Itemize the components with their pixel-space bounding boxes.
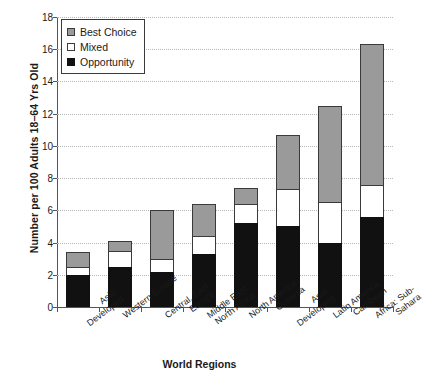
bar-segment-mixed xyxy=(318,202,342,242)
bar-slot xyxy=(351,17,393,307)
legend-label-mixed: Mixed xyxy=(80,41,108,53)
bar-slot xyxy=(141,17,183,307)
y-axis-tick-label: 8 xyxy=(27,173,53,184)
bar-segment-best-choice xyxy=(318,106,342,203)
bar-segment-mixed xyxy=(108,251,132,267)
bar-segment-best-choice xyxy=(360,44,384,184)
y-axis-tick-label: 14 xyxy=(27,76,53,87)
y-axis-tick-label: 6 xyxy=(27,205,53,216)
legend-label-opportunity: Opportunity xyxy=(80,56,134,68)
legend-swatch-icon-best-choice xyxy=(67,28,75,36)
bar-segment-mixed xyxy=(150,259,174,272)
y-axis-tick-label: 16 xyxy=(27,44,53,55)
legend-swatch-icon-mixed xyxy=(67,43,75,51)
bar-segment-mixed xyxy=(234,204,258,223)
y-axis-tick-label: 4 xyxy=(27,237,53,248)
bar-segment-opportunity xyxy=(66,275,90,307)
bar-segment-best-choice xyxy=(150,210,174,258)
bar-slot xyxy=(183,17,225,307)
y-axis-title: Number per 100 Adults 18–64 Yrs Old xyxy=(28,28,40,288)
y-axis-tick-label: 18 xyxy=(27,12,53,23)
x-axis-tick-mark xyxy=(57,307,58,312)
stacked-bar[interactable] xyxy=(360,44,384,307)
legend: Best Choice Mixed Opportunity xyxy=(61,19,145,74)
bar-segment-best-choice xyxy=(66,252,90,267)
legend-item-best-choice: Best Choice xyxy=(67,24,137,39)
bar-segment-mixed xyxy=(276,189,300,226)
legend-label-best-choice: Best Choice xyxy=(80,26,137,38)
bar-segment-best-choice xyxy=(108,241,132,251)
bar-slot xyxy=(225,17,267,307)
stacked-bar[interactable] xyxy=(66,252,90,307)
bar-segment-mixed xyxy=(192,236,216,254)
x-axis-title: World Regions xyxy=(0,358,399,370)
y-axis-tick-label: 12 xyxy=(27,108,53,119)
bar-segment-best-choice xyxy=(192,204,216,236)
bar-segment-best-choice xyxy=(276,135,300,190)
bar-segment-mixed xyxy=(360,185,384,217)
y-axis-tick-label: 2 xyxy=(27,269,53,280)
bar-segment-mixed xyxy=(66,267,90,275)
y-axis-tick-label: 0 xyxy=(27,302,53,313)
legend-swatch-icon-opportunity xyxy=(67,58,75,66)
bar-slot xyxy=(309,17,351,307)
bar-segment-best-choice xyxy=(234,188,258,204)
y-axis-tick-label: 10 xyxy=(27,140,53,151)
bar-slot xyxy=(267,17,309,307)
legend-item-opportunity: Opportunity xyxy=(67,54,137,69)
legend-item-mixed: Mixed xyxy=(67,39,137,54)
stacked-bar[interactable] xyxy=(318,106,342,307)
